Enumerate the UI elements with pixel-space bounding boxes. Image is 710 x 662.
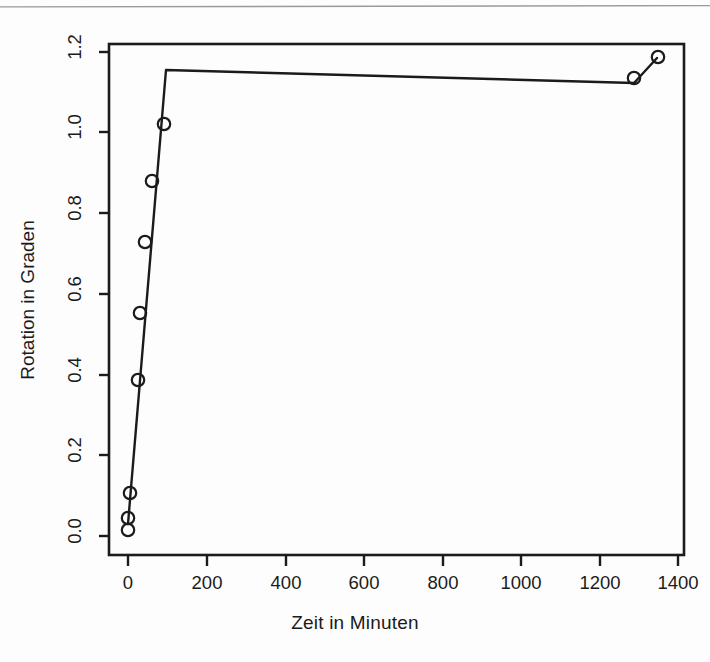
y-tick-label: 0.0 [62, 520, 88, 542]
data-point [652, 51, 664, 63]
data-point [158, 118, 170, 130]
data-point [139, 236, 151, 248]
data-point-markers [122, 51, 664, 536]
y-tick-label: 1.0 [62, 116, 88, 138]
x-tick-label: 1400 [657, 572, 698, 594]
rotation-over-time-chart [0, 0, 710, 662]
model-curve [128, 58, 657, 524]
data-point [134, 307, 146, 319]
x-tick-label: 0 [123, 572, 133, 594]
y-axis-title: Rotation in Graden [17, 220, 39, 380]
x-tick-label: 600 [349, 572, 380, 594]
x-tick-label: 800 [428, 572, 459, 594]
y-tick-label: 0.8 [62, 197, 88, 219]
x-tick-label: 1000 [500, 572, 541, 594]
y-tick-label: 1.2 [62, 36, 88, 58]
y-tick-label: 0.2 [62, 439, 88, 461]
y-axis-ticks [99, 52, 109, 536]
y-tick-label: 0.4 [62, 359, 88, 381]
x-tick-label: 400 [271, 572, 302, 594]
data-point [122, 524, 134, 536]
x-tick-label: 1200 [579, 572, 620, 594]
x-axis-title: Zeit in Minuten [0, 612, 710, 634]
data-point [132, 374, 144, 386]
y-tick-label: 0.6 [62, 278, 88, 300]
page-canvas: 1.2 1.0 0.8 0.6 0.4 0.2 0.0 0 200 400 60… [0, 0, 710, 662]
x-axis-ticks [128, 555, 678, 566]
y-axis-title-wrap: Rotation in Graden [0, 0, 56, 600]
x-tick-label: 200 [192, 572, 223, 594]
plot-box-border [109, 44, 684, 555]
